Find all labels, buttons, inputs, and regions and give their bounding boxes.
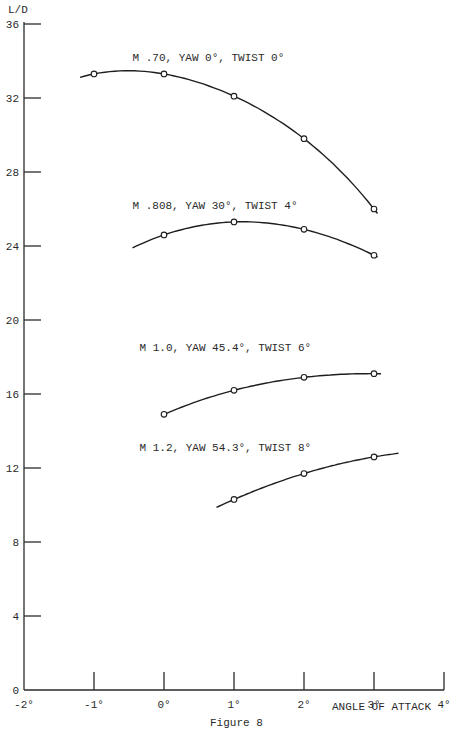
- data-point: [371, 252, 377, 258]
- y-tick-label: 16: [6, 389, 19, 401]
- data-point: [371, 206, 377, 212]
- data-point: [161, 412, 167, 418]
- data-point: [161, 232, 167, 238]
- series-label-3: M 1.2, YAW 54.3°, TWIST 8°: [140, 442, 312, 454]
- x-tick-label: 2°: [297, 699, 310, 711]
- series-label-2: M 1.0, YAW 45.4°, TWIST 6°: [140, 342, 312, 354]
- y-tick-label: 32: [6, 93, 19, 105]
- data-point: [231, 388, 237, 394]
- data-point: [301, 136, 307, 142]
- x-tick-label: 4°: [437, 699, 450, 711]
- data-point: [231, 497, 237, 503]
- series-curve-2: [164, 374, 381, 415]
- x-axis-title: ANGLE OF ATTACK: [332, 701, 431, 713]
- data-points: [91, 71, 377, 502]
- y-tick-label: 4: [12, 611, 19, 623]
- series-label-0: M .70, YAW 0°, TWIST 0°: [133, 52, 285, 64]
- x-tick-label: -2°: [14, 699, 34, 711]
- x-tick-label: 1°: [227, 699, 240, 711]
- data-point: [301, 471, 307, 477]
- y-tick-label: 8: [12, 537, 19, 549]
- y-tick-label: 0: [12, 685, 19, 697]
- data-point: [301, 375, 307, 381]
- data-point: [161, 71, 167, 77]
- series-curve-3: [217, 453, 399, 507]
- series-curve-1: [133, 222, 378, 257]
- series-curve-0: [80, 71, 378, 214]
- data-point: [301, 227, 307, 233]
- data-point: [371, 454, 377, 460]
- data-point: [91, 71, 97, 77]
- data-point: [231, 93, 237, 99]
- data-point: [371, 371, 377, 377]
- axes: 04812162024283236-2°-1°0°1°2°3°4°: [6, 19, 450, 711]
- x-tick-label: 0°: [157, 699, 170, 711]
- ld-vs-angle-of-attack-chart: 04812162024283236-2°-1°0°1°2°3°4° M .70,…: [0, 0, 450, 733]
- y-tick-label: 20: [6, 315, 19, 327]
- y-tick-label: 28: [6, 167, 19, 179]
- y-axis-title: L/D: [8, 4, 28, 16]
- y-tick-label: 24: [6, 241, 20, 253]
- figure-caption: Figure 8: [210, 717, 263, 729]
- y-tick-label: 12: [6, 463, 19, 475]
- series-label-1: M .808, YAW 30°, TWIST 4°: [133, 200, 298, 212]
- data-point: [231, 219, 237, 225]
- y-tick-label: 36: [6, 19, 19, 31]
- x-tick-label: -1°: [84, 699, 104, 711]
